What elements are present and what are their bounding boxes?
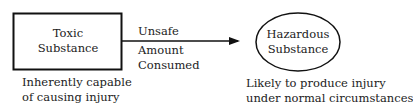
toxic-caption-line1: Inherently capable (22, 75, 132, 90)
edge-label-line1: Amount (138, 43, 200, 58)
hazardous-caption-line2: under normal circumstances (246, 91, 413, 106)
hazardous-title-line1: Hazardous (256, 27, 340, 42)
edge-label-amount: Amount Consumed (138, 43, 200, 73)
toxic-title-line1: Toxic (13, 26, 123, 41)
hazardous-substance-label: Hazardous Substance (256, 27, 340, 57)
toxic-caption-line2: of causing injury (22, 90, 132, 105)
edge-label-line2: Consumed (138, 58, 200, 73)
arrow-head-icon (229, 37, 240, 45)
toxic-substance-label: Toxic Substance (13, 26, 123, 56)
hazardous-caption-line1: Likely to produce injury (246, 76, 413, 91)
edge-label-unsafe: Unsafe (138, 24, 179, 39)
toxic-title-line2: Substance (13, 41, 123, 56)
hazardous-caption: Likely to produce injury under normal ci… (246, 76, 413, 106)
hazardous-title-line2: Substance (256, 42, 340, 57)
toxic-caption: Inherently capable of causing injury (22, 75, 132, 105)
